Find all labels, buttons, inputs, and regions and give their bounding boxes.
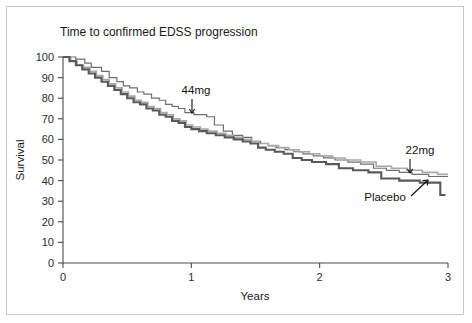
y-tick-label: 50 [42, 154, 54, 166]
y-axis-title: Survival [14, 140, 26, 181]
x-tick-label: 3 [445, 271, 451, 283]
annotation-label-44mg: 44mg [182, 84, 211, 96]
y-tick-label: 40 [42, 175, 54, 187]
annotation-label-placebo: Placebo [364, 191, 406, 203]
data-curves [63, 57, 448, 195]
y-tick-label: 10 [42, 236, 54, 248]
curve-annotations: 44mg22mgPlacebo [182, 84, 435, 203]
annotation-label-22mg: 22mg [406, 144, 435, 156]
series-line-placebo [63, 57, 445, 195]
x-axis-ticks: 0123 [60, 263, 451, 283]
x-tick-label: 0 [60, 271, 66, 283]
chart-title: Time to confirmed EDSS progression [60, 25, 258, 39]
y-tick-label: 30 [42, 195, 54, 207]
y-tick-label: 60 [42, 133, 54, 145]
y-tick-label: 100 [36, 51, 54, 63]
y-tick-label: 80 [42, 92, 54, 104]
y-tick-label: 20 [42, 216, 54, 228]
survival-chart: Time to confirmed EDSS progression 01020… [0, 0, 472, 323]
y-axis-ticks: 0102030405060708090100 [36, 51, 63, 269]
x-tick-label: 2 [317, 271, 323, 283]
series-line-44mg [63, 57, 448, 176]
x-axis-title: Years [241, 290, 270, 302]
y-tick-label: 90 [42, 72, 54, 84]
figure-container: Time to confirmed EDSS progression 01020… [0, 0, 472, 323]
series-line-22mg [63, 57, 448, 174]
y-tick-label: 0 [48, 257, 54, 269]
y-tick-label: 70 [42, 113, 54, 125]
x-tick-label: 1 [188, 271, 194, 283]
